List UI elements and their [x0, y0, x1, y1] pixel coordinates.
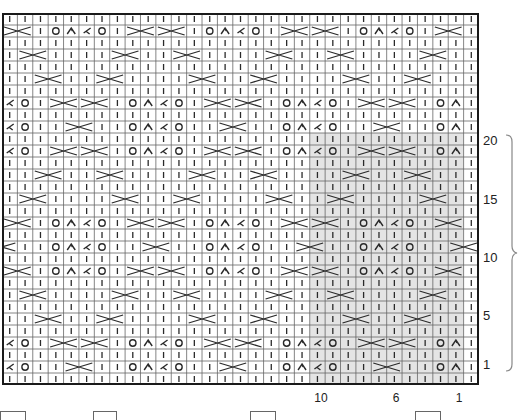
yarn-over-icon: [176, 340, 182, 346]
yarn-over-icon: [53, 220, 59, 226]
ssk-decrease-icon: [298, 124, 306, 130]
yarn-over-icon: [207, 220, 213, 226]
yarn-over-icon: [53, 244, 59, 250]
k2tog-decrease-icon: [237, 28, 244, 34]
col-label-6: 6: [393, 391, 400, 405]
yarn-over-icon: [283, 100, 289, 106]
ssk-decrease-icon: [221, 220, 229, 226]
yarn-over-icon: [22, 100, 28, 106]
row-label-1: 1: [483, 358, 490, 371]
ssk-decrease-icon: [144, 364, 152, 370]
yarn-over-icon: [130, 100, 136, 106]
yarn-over-icon: [207, 268, 213, 274]
yarn-over-icon: [437, 100, 443, 106]
k2tog-decrease-icon: [7, 124, 14, 130]
yarn-over-icon: [53, 28, 59, 34]
k2tog-decrease-icon: [161, 148, 168, 154]
yarn-over-icon: [283, 124, 289, 130]
legend-symbol-box: [415, 411, 441, 420]
repeat-bracket-icon: [505, 134, 518, 372]
k2tog-decrease-icon: [7, 100, 14, 106]
k2tog-decrease-icon: [84, 244, 91, 250]
k2tog-decrease-icon: [391, 28, 398, 34]
yarn-over-icon: [130, 364, 136, 370]
ssk-decrease-icon: [221, 268, 229, 274]
cable-cross-icon: [2, 243, 15, 251]
yarn-over-icon: [360, 28, 366, 34]
k2tog-decrease-icon: [237, 244, 244, 250]
yarn-over-icon: [99, 268, 105, 274]
yarn-over-icon: [130, 124, 136, 130]
k2tog-decrease-icon: [7, 340, 14, 346]
knitting-chart: [2, 13, 479, 385]
yarn-over-icon: [53, 268, 59, 274]
yarn-over-icon: [176, 364, 182, 370]
yarn-over-icon: [176, 100, 182, 106]
yarn-over-icon: [283, 340, 289, 346]
yarn-over-icon: [99, 244, 105, 250]
ssk-decrease-icon: [144, 100, 152, 106]
k2tog-decrease-icon: [314, 100, 321, 106]
yarn-over-icon: [207, 28, 213, 34]
ssk-decrease-icon: [452, 124, 460, 130]
ssk-decrease-icon: [67, 244, 75, 250]
k2tog-decrease-icon: [314, 124, 321, 130]
ssk-decrease-icon: [298, 364, 306, 370]
ssk-decrease-icon: [221, 244, 229, 250]
yarn-over-icon: [22, 124, 28, 130]
k2tog-decrease-icon: [161, 100, 168, 106]
row-label-20: 20: [483, 134, 497, 147]
ssk-decrease-icon: [375, 28, 383, 34]
yarn-over-icon: [22, 148, 28, 154]
ssk-decrease-icon: [298, 148, 306, 154]
yarn-over-icon: [207, 244, 213, 250]
yarn-over-icon: [253, 28, 259, 34]
ssk-decrease-icon: [67, 268, 75, 274]
ssk-decrease-icon: [221, 28, 229, 34]
ssk-decrease-icon: [298, 340, 306, 346]
yarn-over-icon: [330, 100, 336, 106]
k2tog-decrease-icon: [237, 268, 244, 274]
k2tog-decrease-icon: [237, 220, 244, 226]
yarn-over-icon: [130, 148, 136, 154]
legend-symbol-box: [0, 411, 26, 420]
ssk-decrease-icon: [67, 28, 75, 34]
k2tog-decrease-icon: [161, 124, 168, 130]
k2tog-decrease-icon: [161, 340, 168, 346]
yarn-over-icon: [283, 364, 289, 370]
yarn-over-icon: [283, 148, 289, 154]
k2tog-decrease-icon: [7, 364, 14, 370]
k2tog-decrease-icon: [84, 28, 91, 34]
legend-symbol-box: [250, 411, 276, 420]
yarn-over-icon: [407, 28, 413, 34]
yarn-over-icon: [99, 28, 105, 34]
k2tog-decrease-icon: [84, 268, 91, 274]
ssk-decrease-icon: [452, 100, 460, 106]
col-label-1: 1: [456, 391, 463, 405]
yarn-over-icon: [22, 340, 28, 346]
yarn-over-icon: [130, 340, 136, 346]
row-label-5: 5: [483, 309, 490, 322]
yarn-over-icon: [437, 124, 443, 130]
chart-grid: [2, 13, 479, 385]
ssk-decrease-icon: [67, 220, 75, 226]
ssk-decrease-icon: [298, 100, 306, 106]
yarn-over-icon: [99, 220, 105, 226]
yarn-over-icon: [253, 244, 259, 250]
yarn-over-icon: [22, 364, 28, 370]
col-label-10: 10: [314, 391, 327, 405]
k2tog-decrease-icon: [84, 220, 91, 226]
row-label-15: 15: [483, 193, 497, 206]
row-label-10: 10: [483, 251, 497, 264]
ssk-decrease-icon: [144, 124, 152, 130]
yarn-over-icon: [253, 220, 259, 226]
k2tog-decrease-icon: [161, 364, 168, 370]
ssk-decrease-icon: [144, 340, 152, 346]
yarn-over-icon: [330, 124, 336, 130]
k2tog-decrease-icon: [7, 148, 14, 154]
yarn-over-icon: [253, 268, 259, 274]
yarn-over-icon: [176, 124, 182, 130]
legend-symbol-box: [93, 411, 117, 420]
ssk-decrease-icon: [144, 148, 152, 154]
yarn-over-icon: [176, 148, 182, 154]
